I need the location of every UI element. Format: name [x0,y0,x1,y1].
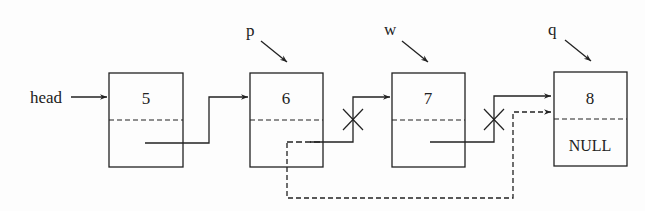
pointer-label-q: q [548,20,557,39]
node-value: 6 [282,89,291,108]
pointer-label-p: p [246,21,255,40]
null-label: NULL [569,137,612,154]
pointer-arrow-w [402,41,428,62]
pointer-label-w: w [384,20,397,39]
node-4: 8 NULL [554,72,627,166]
node-1: 5 [109,73,183,167]
linked-list-diagram: head 5 6 7 8 NULL p w q [0,0,645,211]
node-value: 8 [586,89,595,108]
pointer-arrow-q [565,40,591,61]
edge-n3-n4-removed [430,96,551,142]
edge-n2-n4-new [287,112,551,198]
pointer-arrow-p [261,41,287,62]
node-value: 7 [424,89,433,108]
node-3: 7 [392,73,465,167]
node-value: 5 [142,89,151,108]
head-label: head [30,88,63,107]
